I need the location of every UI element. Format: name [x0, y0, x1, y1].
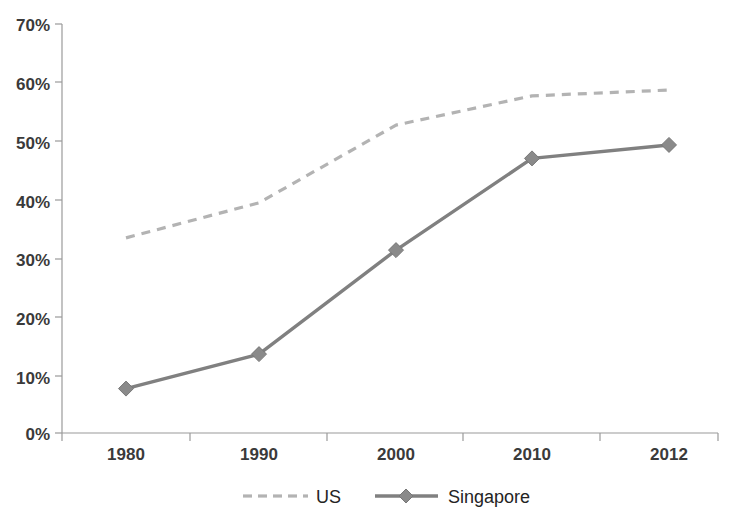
x-tick-label: 1980: [107, 445, 145, 464]
y-tick-label: 70%: [16, 16, 50, 35]
y-tick-label: 50%: [16, 134, 50, 153]
x-tick-label: 1990: [240, 445, 278, 464]
y-tick-label: 0%: [25, 425, 50, 444]
y-tick-label: 60%: [16, 75, 50, 94]
x-tick-label: 2000: [377, 445, 415, 464]
y-tick-label: 40%: [16, 193, 50, 212]
legend-label-us: US: [316, 487, 341, 507]
x-tick-label: 2012: [650, 445, 688, 464]
x-tick-label: 2010: [513, 445, 551, 464]
legend-label-singapore: Singapore: [448, 487, 530, 507]
line-chart: 70% 60% 50% 40% 30% 20% 10% 0%: [0, 0, 734, 510]
y-tick-label: 30%: [16, 251, 50, 270]
y-tick-label: 20%: [16, 310, 50, 329]
y-tick-label: 10%: [16, 369, 50, 388]
chart-canvas: 70% 60% 50% 40% 30% 20% 10% 0%: [0, 0, 734, 510]
